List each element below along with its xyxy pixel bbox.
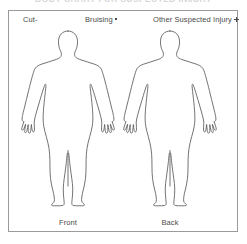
body-figure-back: Back (121, 28, 219, 228)
figure-caption-back: Back (121, 218, 219, 227)
body-chart-diagram: BODY CHART FOR SUSPECTED INJURY Cut- Bru… (0, 0, 247, 244)
legend: Cut- Bruising Other Suspected Injury (9, 15, 237, 29)
cutoff-title-text: BODY CHART FOR SUSPECTED INJURY (35, 0, 212, 4)
cutoff-title-strip: BODY CHART FOR SUSPECTED INJURY (0, 0, 247, 7)
anterior-body-outline-icon (19, 28, 117, 210)
dot-marker-icon (115, 18, 118, 21)
diagram-frame: Cut- Bruising Other Suspected Injury Fro… (8, 10, 238, 232)
legend-label-bruising: Bruising (85, 15, 113, 24)
legend-item-bruising: Bruising (85, 15, 117, 25)
figure-caption-front: Front (19, 218, 117, 227)
legend-label-cut: Cut- (23, 15, 38, 24)
posterior-body-outline-icon (121, 28, 219, 210)
legend-label-other-suspected-injury: Other Suspected Injury (153, 15, 232, 24)
plus-marker-icon (234, 17, 239, 22)
body-figure-front: Front (19, 28, 117, 228)
legend-item-cut: Cut- (23, 15, 38, 25)
legend-item-other-suspected-injury: Other Suspected Injury (153, 15, 239, 25)
